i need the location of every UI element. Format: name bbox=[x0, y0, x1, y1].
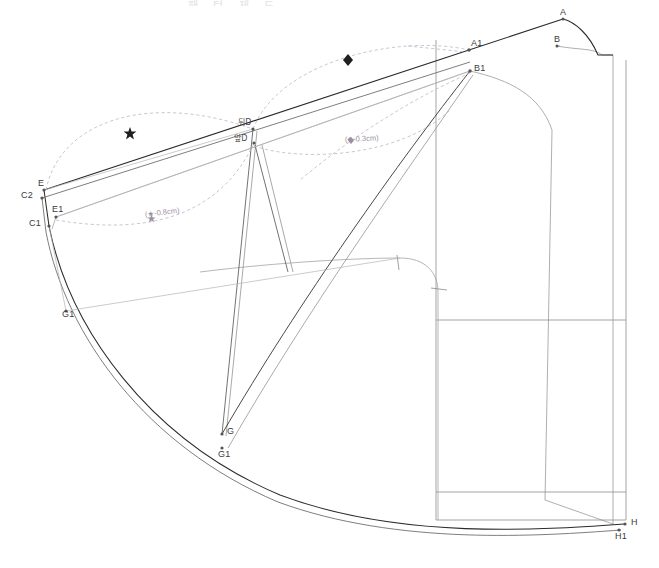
dot-D-front bbox=[252, 141, 255, 144]
dot-E1 bbox=[54, 215, 57, 218]
dot-E bbox=[42, 188, 45, 191]
dot-D-back bbox=[251, 127, 254, 130]
dot-H1 bbox=[617, 528, 620, 531]
dart-wedge-left bbox=[255, 145, 288, 272]
dot-A1 bbox=[467, 48, 470, 51]
hem-line bbox=[545, 500, 613, 524]
dot-C1 bbox=[47, 224, 50, 227]
outer-hem-curve-dark bbox=[49, 226, 625, 529]
neckline-curve bbox=[557, 46, 613, 55]
outer-hem-curve-offset bbox=[46, 232, 621, 535]
construction-rays bbox=[44, 71, 470, 311]
marker-star-icon bbox=[124, 127, 137, 139]
dart-lines bbox=[222, 129, 293, 436]
ray-c1-g1 bbox=[49, 226, 66, 311]
dart-wedge-right bbox=[262, 145, 293, 272]
arc-diamond-upper bbox=[253, 45, 469, 129]
inner-armhole-detail bbox=[200, 255, 447, 520]
ray-g1-armhole bbox=[66, 258, 400, 311]
dart-leg-back bbox=[222, 129, 253, 434]
tick-mark-a bbox=[397, 255, 399, 270]
dot-B1 bbox=[468, 69, 471, 72]
marker-diamond-icon bbox=[343, 54, 353, 66]
body-frame bbox=[436, 40, 626, 520]
dot-H bbox=[623, 522, 626, 525]
symbol-markers bbox=[124, 54, 353, 139]
dot-B bbox=[556, 45, 559, 48]
dot-G bbox=[220, 432, 223, 435]
pattern-draft-svg bbox=[0, 0, 659, 568]
main-outline-dark bbox=[44, 19, 625, 529]
dot-A bbox=[562, 18, 565, 21]
arc-star-upper bbox=[46, 113, 253, 190]
dot-C2 bbox=[40, 196, 43, 199]
dot-G1-lower bbox=[220, 446, 223, 449]
side-seam-line bbox=[545, 130, 552, 500]
arc-tail-a1 bbox=[408, 46, 466, 52]
armhole-curve-outer bbox=[470, 71, 552, 130]
ray-e1-b1 bbox=[56, 71, 470, 217]
bodice-block-construction bbox=[470, 46, 613, 524]
pattern-draft-canvas: 패 턴 제 도 bbox=[0, 0, 659, 568]
tick-mark-b bbox=[431, 288, 447, 290]
annotation-diamond-icon bbox=[348, 137, 354, 144]
inner-outline-light bbox=[52, 71, 470, 229]
upper-edge-dark bbox=[44, 19, 563, 190]
diagonal-curve-dark bbox=[222, 71, 470, 434]
inner-left-edge bbox=[52, 217, 56, 229]
dot-G1-left bbox=[64, 309, 67, 312]
arc-diamond-lower bbox=[254, 110, 450, 154]
ray-e-dback bbox=[44, 129, 253, 190]
principal-diagonal bbox=[222, 71, 470, 434]
upper-edge-offset bbox=[42, 62, 470, 198]
